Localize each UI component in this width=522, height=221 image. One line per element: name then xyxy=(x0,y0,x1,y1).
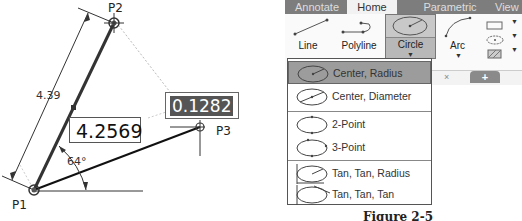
menu-item-tan-tan-tan[interactable]: Tan, Tan, Tan xyxy=(288,183,431,206)
line-label: Line xyxy=(293,40,323,51)
polyline-label: Polyline xyxy=(333,40,385,51)
ellipse-dropdown-caret-icon[interactable]: ▼ xyxy=(511,32,518,39)
dimension-length-label: 4.39 xyxy=(36,89,61,102)
ribbon-tabs: Annotate Home Parametric View xyxy=(285,0,522,14)
tan-tan-radius-icon xyxy=(294,164,330,184)
two-point-circle-icon xyxy=(294,115,330,135)
point-label-p1: P1 xyxy=(12,198,27,212)
arc-icon xyxy=(440,16,480,38)
angle-input[interactable]: 0.1282 xyxy=(165,92,239,119)
ellipse-icon xyxy=(485,35,505,45)
menu-item-center-diameter[interactable]: Center, Diameter xyxy=(288,85,431,108)
rectangle-dropdown-caret-icon[interactable]: ▼ xyxy=(511,18,518,25)
polyline-tool-button[interactable]: Polyline xyxy=(333,14,385,58)
tan-tan-tan-icon xyxy=(294,185,330,205)
circle-tool-button[interactable]: Circle ▼ xyxy=(385,14,436,59)
menu-item-3-point[interactable]: 3-Point xyxy=(288,136,431,159)
center-diameter-icon xyxy=(294,87,330,107)
hatch-icon xyxy=(485,49,505,59)
point-label-p2: P2 xyxy=(108,1,123,15)
menu-separator xyxy=(288,111,431,112)
menu-separator xyxy=(288,160,431,161)
length-input[interactable]: 4.2569 xyxy=(69,117,141,143)
tab-home[interactable]: Home xyxy=(347,0,397,14)
line-icon xyxy=(291,16,331,38)
tab-view[interactable]: View xyxy=(495,0,522,14)
circle-dropdown-menu: Center, Radius Center, Diameter 2-Point … xyxy=(287,58,432,205)
circle-label: Circle xyxy=(386,39,435,50)
arc-label: Arc xyxy=(450,40,465,51)
three-point-circle-icon xyxy=(294,138,330,158)
arc-tool-button[interactable]: Arc ▼ xyxy=(440,14,480,58)
rectangle-icon xyxy=(485,21,505,31)
circle-icon xyxy=(386,15,435,37)
figure-caption: Figure 2-5 xyxy=(363,210,433,221)
menu-item-center-radius[interactable]: Center, Radius xyxy=(288,61,431,84)
drawing-canvas[interactable]: P2 P1 P3 4.39 64° 4.2569 0.1282 xyxy=(0,0,270,221)
center-radius-icon xyxy=(295,64,331,84)
polyline-icon xyxy=(339,16,379,38)
rectangle-tool-button[interactable]: ▼ xyxy=(485,17,522,29)
angle-label: 64° xyxy=(67,155,87,168)
hatch-dropdown-caret-icon[interactable]: ▼ xyxy=(511,46,518,53)
close-tab-icon[interactable]: × xyxy=(444,72,449,82)
circle-dropdown-caret-icon[interactable]: ▼ xyxy=(407,51,414,58)
angle-input-value: 0.1282 xyxy=(170,96,233,116)
point-label-p3: P3 xyxy=(216,124,231,138)
tab-parametric[interactable]: Parametric xyxy=(415,0,485,14)
menu-item-2-point[interactable]: 2-Point xyxy=(288,113,431,136)
arc-dropdown-caret-icon[interactable]: ▼ xyxy=(455,52,462,59)
ellipse-tool-button[interactable]: ▼ xyxy=(485,31,522,43)
menu-item-tan-tan-radius[interactable]: Tan, Tan, Radius xyxy=(288,162,431,185)
new-tab-button[interactable]: + xyxy=(470,71,500,83)
line-tool-button[interactable]: Line xyxy=(285,14,333,58)
tab-annotate[interactable]: Annotate xyxy=(287,0,347,14)
hatch-tool-button[interactable]: ▼ xyxy=(485,45,522,57)
